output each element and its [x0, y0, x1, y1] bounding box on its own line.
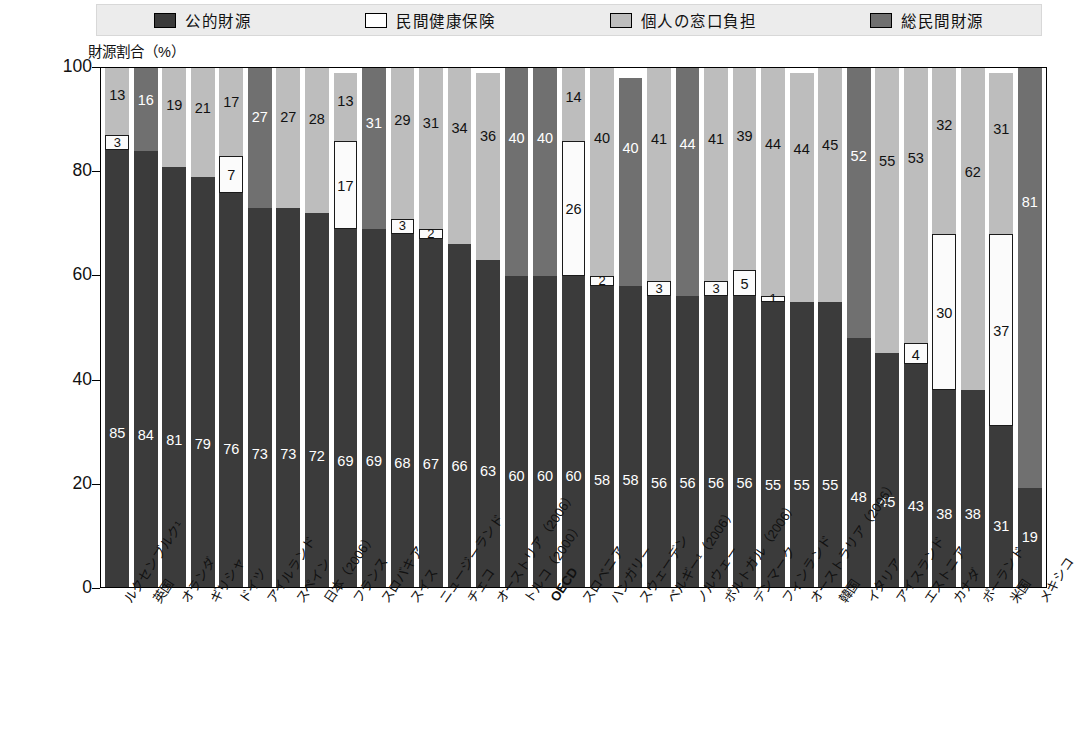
x-category-label-14: トルコ（2000） — [504, 592, 528, 752]
bar-value-label: 76 — [219, 442, 243, 457]
bar-9[interactable]: 3169 — [362, 68, 386, 587]
x-category-label-8: フランス — [333, 592, 357, 752]
bar-value-label: 69 — [334, 454, 358, 469]
bar-6[interactable]: 2773 — [276, 68, 300, 587]
bar-2[interactable]: 1981 — [162, 68, 186, 587]
bar-20[interactable]: 4456 — [676, 68, 700, 587]
bar-value-label: 3 — [106, 136, 128, 149]
bar-29[interactable]: 323038 — [932, 68, 956, 587]
bar-segment-oop: 27 — [276, 68, 300, 208]
bar-30[interactable]: 6238 — [961, 68, 985, 587]
bar-value-label: 58 — [619, 473, 643, 488]
bar-22[interactable]: 39556 — [733, 68, 757, 587]
bar-segment-public: 73 — [276, 208, 300, 587]
bar-value-label: 56 — [733, 476, 757, 491]
bar-value-label: 26 — [563, 202, 585, 217]
bar-segment-pinsurance: 4 — [904, 343, 928, 364]
bar-13[interactable]: 3663 — [476, 68, 500, 587]
bar-value-label: 40 — [590, 131, 614, 146]
bar-value-label: 37 — [990, 324, 1012, 339]
bar-25[interactable]: 4555 — [818, 68, 842, 587]
bar-segment-oop: 45 — [818, 68, 842, 302]
bar-value-label: 56 — [647, 476, 671, 491]
legend-swatch-private-insurance — [365, 13, 387, 28]
bar-segment-oop: 62 — [961, 68, 985, 390]
bar-19[interactable]: 41356 — [647, 68, 671, 587]
x-category-label-5: アイルランド — [247, 592, 271, 752]
legend-swatch-total-private — [870, 13, 892, 28]
bar-segment-pinsurance: 7 — [219, 156, 243, 192]
bar-value-label: 40 — [505, 131, 529, 146]
bar-value-label: 16 — [134, 93, 158, 108]
x-category-label-3: ギリシャ — [190, 592, 214, 752]
x-category-label-29: カナダ — [933, 592, 957, 752]
bar-32[interactable]: 8119 — [1018, 68, 1042, 587]
bar-1[interactable]: 1684 — [134, 68, 158, 587]
legend-label: 公的財源 — [185, 9, 251, 31]
legend-swatch-out-of-pocket — [610, 13, 632, 28]
bar-segment-pinsurance: 2 — [419, 229, 443, 239]
bar-12[interactable]: 3466 — [448, 68, 472, 587]
bar-28[interactable]: 53443 — [904, 68, 928, 587]
bar-value-label: 4 — [905, 348, 927, 363]
x-category-label-2: オランダ — [162, 592, 186, 752]
bar-value-label: 13 — [334, 94, 358, 109]
bar-segment-totalprivate: 27 — [248, 68, 272, 208]
bar-segment-oop: 32 — [932, 68, 956, 234]
bar-value-label: 31 — [989, 519, 1013, 534]
bar-segment-oop: 17 — [219, 68, 243, 156]
bar-8[interactable]: 131769 — [334, 68, 358, 587]
bar-segment-oop: 19 — [162, 68, 186, 167]
bar-segment-oop: 14 — [562, 68, 586, 141]
bar-segment-pinsurance: 5 — [733, 270, 757, 296]
legend-item-oop: 個人の窓口負担 — [610, 9, 757, 31]
y-axis-title: 財源割合（%） — [88, 40, 185, 61]
bar-14[interactable]: 4060 — [505, 68, 529, 587]
bar-value-label: 56 — [676, 476, 700, 491]
bar-segment-public: 58 — [590, 286, 614, 587]
bar-segment-public: 76 — [219, 193, 243, 587]
bar-segment-pinsurance: 3 — [105, 135, 129, 150]
y-tick-mark-0 — [92, 588, 100, 589]
bar-value-label: 34 — [448, 121, 472, 136]
legend-item-pinsurance: 民間健康保険 — [365, 9, 495, 31]
bar-4[interactable]: 17776 — [219, 68, 243, 587]
bar-segment-totalprivate: 81 — [1018, 68, 1042, 488]
bar-segment-public: 73 — [248, 208, 272, 587]
bar-segment-oop: 53 — [904, 68, 928, 343]
bar-value-label: 28 — [305, 112, 329, 127]
bar-value-label: 81 — [162, 433, 186, 448]
bar-value-label: 19 — [162, 98, 186, 113]
bar-7[interactable]: 2872 — [305, 68, 329, 587]
bar-value-label: 55 — [818, 478, 842, 493]
bar-18[interactable]: 4058 — [619, 68, 643, 587]
x-category-label-6: スペイン — [276, 592, 300, 752]
x-category-label-11: ニュージーランド — [419, 592, 443, 752]
x-axis-category-labels: ルクセンブルク¹英国オランダギリシャドイツアイルランドスペイン日本（2006）フ… — [100, 592, 1047, 752]
bar-value-label: 85 — [105, 426, 129, 441]
bar-segment-oop: 36 — [476, 73, 500, 260]
bar-segment-oop: 34 — [448, 68, 472, 244]
bar-3[interactable]: 2179 — [191, 68, 215, 587]
bar-segment-oop: 31 — [989, 73, 1013, 234]
bar-31[interactable]: 313731 — [989, 68, 1013, 587]
bar-value-label: 31 — [989, 122, 1013, 137]
bar-value-label: 2 — [591, 274, 613, 287]
bar-value-label: 55 — [790, 478, 814, 493]
bar-value-label: 36 — [476, 129, 500, 144]
bar-value-label: 45 — [818, 138, 842, 153]
bar-segment-oop: 29 — [391, 68, 415, 219]
bar-10[interactable]: 29368 — [391, 68, 415, 587]
bar-value-label: 44 — [790, 142, 814, 157]
x-category-label-21: ポルトガル（2006） — [705, 592, 729, 752]
bar-0[interactable]: 13385 — [105, 68, 129, 587]
bar-value-label: 52 — [847, 149, 871, 164]
bar-17[interactable]: 40258 — [590, 68, 614, 587]
bar-11[interactable]: 31267 — [419, 68, 443, 587]
y-tick-label-100: 100 — [40, 56, 92, 77]
bar-value-label: 31 — [419, 116, 443, 131]
bar-segment-totalprivate: 31 — [362, 68, 386, 229]
bar-segment-oop: 41 — [647, 68, 671, 281]
bar-value-label: 63 — [476, 464, 500, 479]
bar-5[interactable]: 2773 — [248, 68, 272, 587]
